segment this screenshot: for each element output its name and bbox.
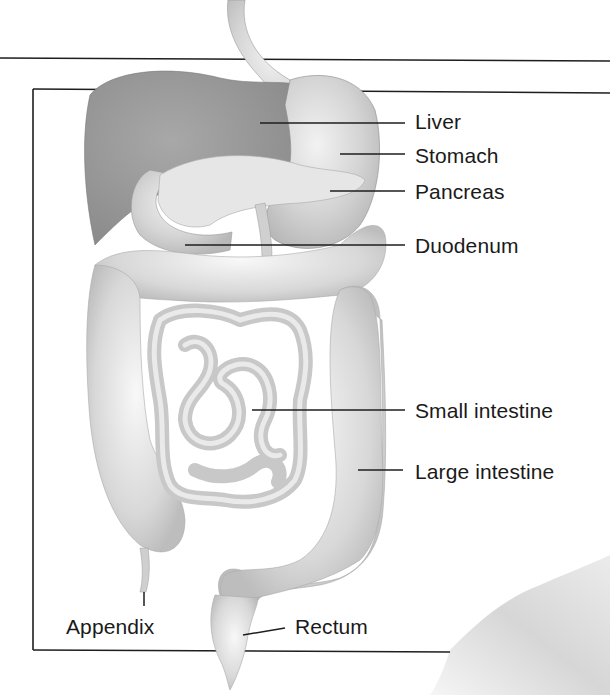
outer-top-line <box>0 58 610 61</box>
label-liver: Liver <box>415 111 461 132</box>
label-duodenum: Duodenum <box>415 235 519 256</box>
rectum-organ <box>211 595 258 690</box>
digestive-system-diagram: Liver Stomach Pancreas Duodenum Small in… <box>0 0 610 695</box>
body-contour <box>430 555 610 695</box>
small-intestine-organ <box>154 311 306 502</box>
anatomy-illustration <box>0 0 610 695</box>
label-stomach: Stomach <box>415 145 499 166</box>
appendix-organ <box>140 548 149 592</box>
label-rectum: Rectum <box>295 616 368 637</box>
label-large-intestine: Large intestine <box>415 461 554 482</box>
label-appendix: Appendix <box>66 616 154 637</box>
label-pancreas: Pancreas <box>415 181 505 202</box>
label-small-intestine: Small intestine <box>415 400 553 421</box>
